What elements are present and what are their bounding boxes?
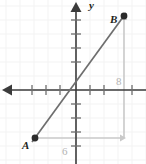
x-axis-arrowhead	[2, 85, 12, 96]
line-ab	[32, 13, 126, 142]
point-a-marker	[32, 135, 39, 142]
point-b-label: B	[110, 14, 117, 25]
y-axis-label: y	[89, 0, 94, 11]
coordinate-plane-figure: y A B 8 6	[0, 0, 146, 164]
point-b-marker	[121, 13, 128, 20]
horizontal-leg-length-label: 6	[62, 146, 68, 157]
horizontal-leg-arrowhead	[120, 135, 126, 142]
vertical-leg-length-label: 8	[116, 76, 122, 87]
point-a-label: A	[22, 140, 29, 151]
y-axis-arrowhead	[71, 2, 82, 12]
